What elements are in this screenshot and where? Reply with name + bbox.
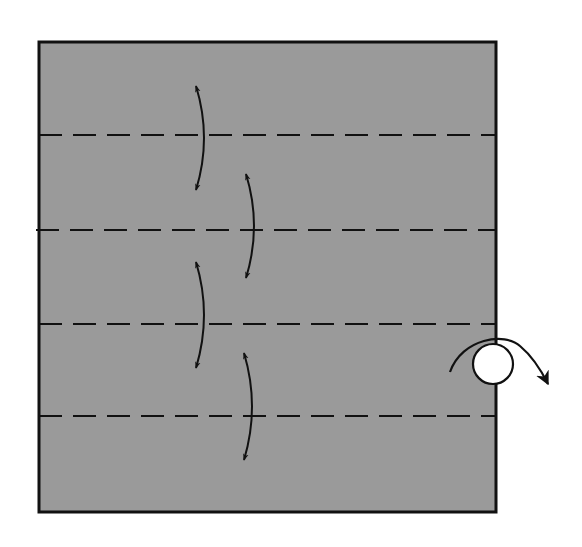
origami-diagram bbox=[0, 0, 582, 547]
turn-over-circle-icon bbox=[473, 344, 513, 384]
paper-square bbox=[39, 42, 496, 512]
